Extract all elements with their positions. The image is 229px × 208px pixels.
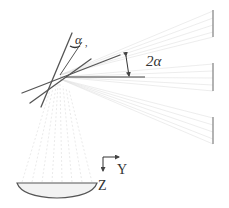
lens-to-mirror-rays — [22, 84, 92, 182]
two-alpha-label: 2α — [146, 53, 163, 69]
mirror-line-shallow — [22, 55, 120, 93]
y-axis-label: Y — [117, 162, 127, 177]
z-axis-label: Z — [98, 178, 107, 193]
two-alpha-arrow — [126, 56, 129, 76]
mirror-line-steep — [41, 33, 72, 107]
mirror-positions — [22, 33, 120, 107]
optical-scan-diagram: α , 2α Y Z — [0, 0, 229, 208]
alpha-label: α — [75, 32, 83, 47]
lens — [17, 183, 97, 198]
alpha-subscript: , — [85, 37, 88, 48]
